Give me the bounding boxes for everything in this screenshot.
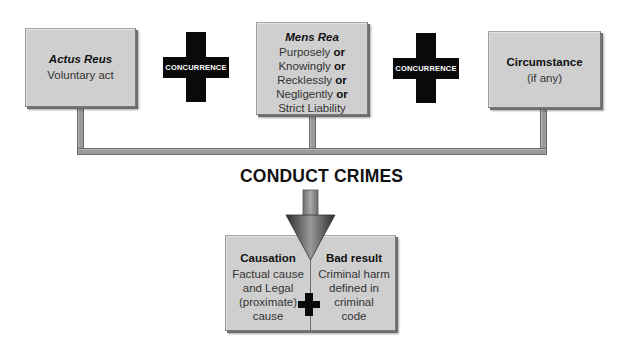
circumstance-title: Circumstance xyxy=(489,56,600,68)
mens-rea-option: Negligently or xyxy=(257,87,367,101)
concurrence-label-1: CONCURRENCE xyxy=(163,57,229,78)
mens-rea-option: Knowingly or xyxy=(257,59,367,73)
mens-rea-option: Recklessly or xyxy=(257,73,367,87)
causation-line: Factual cause xyxy=(226,267,310,281)
bad-result-line: Criminal harm xyxy=(311,267,397,281)
mens-rea-title: Mens Rea xyxy=(257,31,367,43)
mens-rea-box: Mens Rea Purposely or Knowingly or Reckl… xyxy=(256,22,368,115)
concurrence-label-2: CONCURRENCE xyxy=(393,58,459,79)
bad-result-line: criminal xyxy=(311,295,397,309)
actus-reus-line: Voluntary act xyxy=(26,68,135,82)
circumstance-box: Circumstance (if any) xyxy=(488,31,601,108)
mens-rea-option: Purposely or xyxy=(257,45,367,59)
actus-reus-box: Actus Reus Voluntary act xyxy=(25,28,136,107)
down-arrow-icon xyxy=(284,188,338,262)
causation-line: cause xyxy=(226,309,310,323)
causation-line: and Legal xyxy=(226,281,310,295)
actus-reus-title: Actus Reus xyxy=(26,53,135,65)
plus-horizontal-bar xyxy=(298,301,320,308)
bad-result-line: defined in xyxy=(311,281,397,295)
bad-result-line: code xyxy=(311,309,397,323)
causation-panel: Causation Factual cause and Legal (proxi… xyxy=(226,252,310,323)
bad-result-panel: Bad result Criminal harm defined in crim… xyxy=(311,252,397,323)
circumstance-line: (if any) xyxy=(489,71,600,85)
mens-rea-option: Strict Liability xyxy=(257,101,367,115)
conduct-crimes-title: CONDUCT CRIMES xyxy=(240,166,403,187)
connector-pipe-horizontal xyxy=(77,148,547,155)
